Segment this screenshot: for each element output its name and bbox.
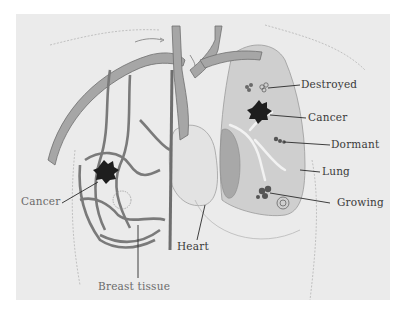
label-destroyed: Destroyed: [301, 78, 357, 90]
label-dormant: Dormant: [331, 138, 379, 150]
heart-illustration: [169, 125, 217, 205]
label-cancer-lung: Cancer: [308, 111, 347, 123]
label-heart: Heart: [177, 240, 209, 252]
label-cancer-breast: Cancer: [21, 195, 60, 207]
label-growing: Growing: [337, 196, 384, 208]
breast-cancer-metastasis-illustration: [0, 0, 407, 315]
label-lung: Lung: [322, 165, 350, 177]
vertical-vessel: [170, 70, 172, 250]
breast-lobule: [113, 191, 131, 209]
label-breast-tissue: Breast tissue: [98, 280, 170, 292]
